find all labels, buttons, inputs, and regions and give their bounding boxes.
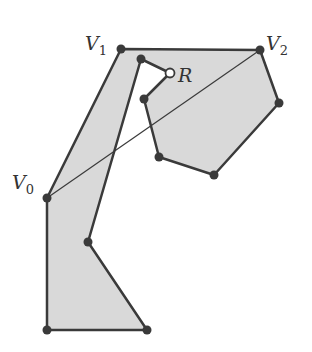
polygon-shape [47, 49, 279, 330]
label-r: R [177, 64, 192, 86]
vertex [275, 99, 284, 108]
label-v1: V1 [85, 32, 107, 58]
vertex [210, 171, 219, 180]
vertex-v0 [43, 194, 52, 203]
label-v0: V0 [12, 171, 34, 197]
vertex-r [166, 69, 175, 78]
polygon-diagram: V0 V1 V2 R [0, 0, 312, 352]
vertex [43, 326, 52, 335]
vertex [84, 238, 93, 247]
vertex-v2 [256, 46, 265, 55]
vertex [155, 153, 164, 162]
label-v2: V2 [266, 32, 288, 58]
vertex [140, 95, 149, 104]
vertex [137, 55, 146, 64]
vertex [143, 326, 152, 335]
vertex-v1 [117, 45, 126, 54]
